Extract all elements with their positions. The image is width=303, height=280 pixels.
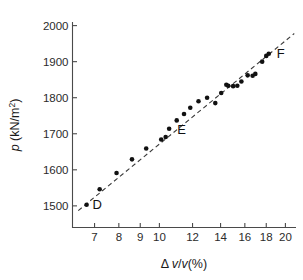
data-point <box>235 84 240 89</box>
x-tick-label: 12 <box>186 231 199 243</box>
data-point <box>205 95 210 100</box>
x-tick-label: 18 <box>260 231 273 243</box>
y-tick-label: 2000 <box>43 20 69 32</box>
point-label-f: F <box>277 46 285 61</box>
data-point <box>253 72 258 77</box>
point-label-d: D <box>93 197 102 212</box>
y-tick-label: 1800 <box>43 92 69 104</box>
y-axis-title: p (kN/m2) <box>7 99 22 153</box>
y-tick-label: 1900 <box>43 56 69 68</box>
data-point <box>266 51 271 56</box>
data-point <box>167 126 172 131</box>
data-point <box>196 99 201 104</box>
y-axis-title-close-paren: ) <box>8 99 22 103</box>
x-axis-ticks: 789101214161820 <box>91 223 291 243</box>
chart-canvas: 150016001700180019002000 789101214161820… <box>0 0 303 280</box>
x-tick-label: 7 <box>91 231 97 243</box>
y-tick-label: 1600 <box>43 164 69 176</box>
data-point <box>130 157 135 162</box>
data-point <box>182 112 187 117</box>
data-point <box>114 171 119 176</box>
x-tick-label: 8 <box>116 231 122 243</box>
svg-text:Δ v/v(%): Δ v/v(%) <box>161 257 207 271</box>
data-point <box>84 202 89 207</box>
svg-text:p (kN/m2): p (kN/m2) <box>7 99 22 153</box>
x-axis-title: Δ v/v(%) <box>161 257 207 271</box>
x-axis-title-percent: (%) <box>188 257 207 271</box>
x-axis-title-delta: Δ <box>161 257 169 271</box>
y-tick-label: 1500 <box>43 200 69 212</box>
point-annotations-group: DEF <box>93 46 285 212</box>
data-point <box>97 187 102 192</box>
x-tick-label: 9 <box>137 231 143 243</box>
x-tick-label: 14 <box>214 231 227 243</box>
scatter-chart-figure: 150016001700180019002000 789101214161820… <box>0 0 303 280</box>
data-point <box>219 91 224 96</box>
x-tick-label: 16 <box>238 231 251 243</box>
y-axis-title-symbol: p <box>8 144 22 152</box>
data-point <box>226 84 231 89</box>
y-tick-label: 1700 <box>43 128 69 140</box>
data-point <box>260 59 265 64</box>
data-point <box>144 146 149 151</box>
x-tick-label: 10 <box>153 231 166 243</box>
y-axis-title-unit: (kN/m <box>8 108 22 145</box>
data-point <box>163 135 168 140</box>
data-point <box>231 84 236 89</box>
point-label-e: E <box>177 122 186 137</box>
x-tick-label: 20 <box>279 231 292 243</box>
data-point <box>213 101 218 106</box>
data-point <box>245 73 250 78</box>
data-point <box>239 79 244 84</box>
data-point <box>159 137 164 142</box>
y-axis-ticks: 150016001700180019002000 <box>43 20 77 212</box>
data-point <box>188 106 193 111</box>
